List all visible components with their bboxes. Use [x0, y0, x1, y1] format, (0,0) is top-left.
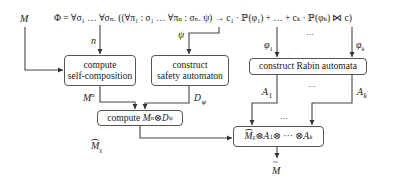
dots-automata-mid: …: [280, 112, 289, 121]
edge-label-A1: A1: [262, 87, 273, 97]
edge-label-Mhat-chi: Mχ: [91, 141, 102, 151]
specification-formula: Φ = ∀σ₁ … ∀σₙ. ((∀π₁ : σ₁ … ∀πₙ : σₙ. ψ)…: [54, 12, 352, 23]
box-compute-self-composition: compute self-composition: [64, 55, 136, 86]
input-model-label: M: [20, 14, 28, 24]
edge-label-psi: ψ: [178, 30, 184, 40]
edge-label-phik: φk: [356, 40, 364, 50]
edge-label-phi1: φ1: [264, 40, 273, 50]
edge-label-Dpsi: Dψ: [194, 93, 206, 103]
box-final-product: Mχ ⊗ A1 ⊗ ··· ⊗ Ak: [233, 126, 324, 147]
box-construct-rabin-automata: construct Rabin automata: [249, 58, 367, 75]
edge-label-Ak: Ak: [357, 87, 367, 97]
dots-automata-top: …: [308, 80, 317, 89]
box-construct-safety-automaton: construct safety automaton: [151, 55, 229, 86]
box-compute-product-Mn-Dpsi: compute Mn ⊗ Dψ: [97, 110, 183, 126]
output-model-label: M: [272, 166, 280, 176]
dots-phi: …: [306, 28, 315, 37]
edge-label-n: n: [91, 36, 96, 46]
edge-label-Mn: Mn: [83, 93, 95, 103]
